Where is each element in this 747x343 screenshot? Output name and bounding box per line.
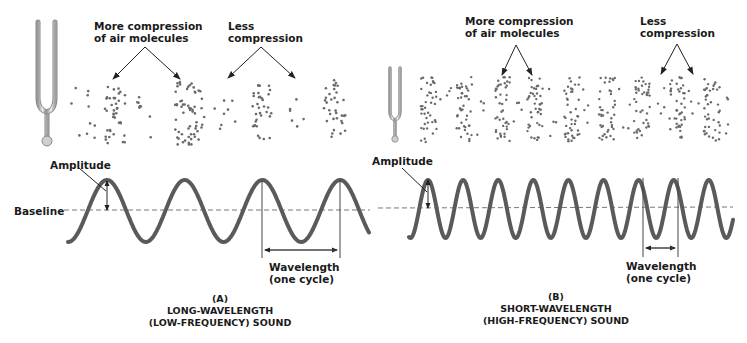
- compression-arrows-a: [113, 47, 180, 79]
- rarefaction-arrows-a: [228, 47, 295, 78]
- rarefaction-label-b: Less compression: [640, 15, 715, 39]
- sine-wave-a: [68, 180, 369, 242]
- baseline-b: [378, 207, 733, 208]
- caption-title-a: LONG-WAVELENGTH: [120, 305, 320, 317]
- amplitude-label-b: Amplitude: [372, 155, 433, 167]
- tuning-fork-icon-a: [38, 22, 55, 146]
- air-molecules-a: [70, 79, 346, 146]
- amplitude-label-a: Amplitude: [50, 159, 111, 171]
- caption-b: (B) SHORT-WAVELENGTH (HIGH-FREQUENCY) SO…: [456, 291, 656, 327]
- rarefaction-arrows-b: [661, 44, 693, 74]
- caption-letter-b: (B): [456, 291, 656, 303]
- amplitude-indicator-a: [79, 168, 107, 210]
- compression-arrows-b: [502, 45, 532, 75]
- air-molecules-b: [420, 76, 729, 143]
- sine-wave-b: [409, 180, 733, 238]
- wavelength-label-b: Wavelength (one cycle): [626, 260, 696, 284]
- tuning-fork-icon-b: [390, 68, 400, 142]
- caption-subtitle-a: (LOW-FREQUENCY) SOUND: [120, 317, 320, 329]
- caption-title-b: SHORT-WAVELENGTH: [456, 303, 656, 315]
- baseline-label: Baseline: [14, 205, 64, 217]
- wavelength-label-a: Wavelength (one cycle): [269, 261, 339, 285]
- caption-a: (A) LONG-WAVELENGTH (LOW-FREQUENCY) SOUN…: [120, 293, 320, 329]
- compression-label-b: More compression of air molecules: [465, 15, 574, 39]
- rarefaction-label-a: Less compression: [228, 20, 303, 44]
- caption-letter-a: (A): [120, 293, 320, 305]
- caption-subtitle-b: (HIGH-FREQUENCY) SOUND: [456, 315, 656, 327]
- compression-label-a: More compression of air molecules: [94, 20, 203, 44]
